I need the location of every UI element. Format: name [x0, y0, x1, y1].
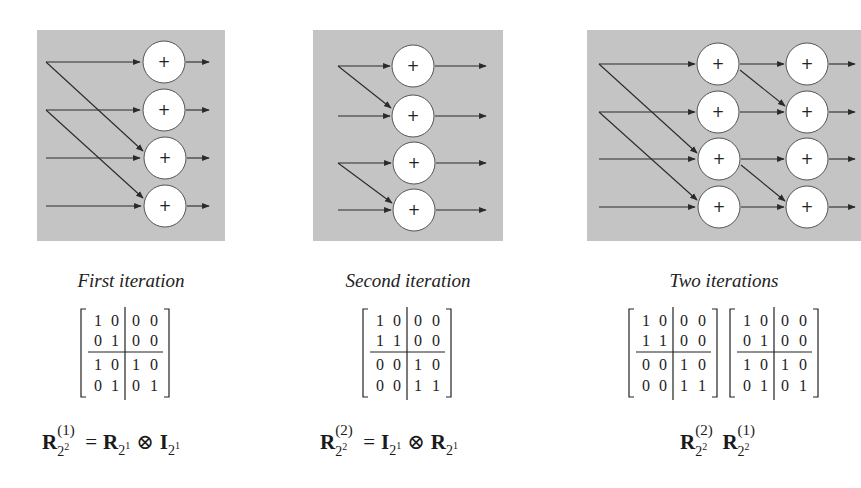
- svg-text:0: 0: [150, 356, 158, 373]
- svg-text:+: +: [158, 101, 171, 119]
- svg-text:0: 0: [760, 312, 768, 329]
- svg-text:0: 0: [698, 312, 706, 329]
- svg-text:0: 0: [642, 356, 650, 373]
- svg-text:0: 0: [432, 312, 440, 329]
- svg-text:+: +: [801, 198, 814, 216]
- svg-text:+: +: [712, 103, 725, 121]
- svg-text:1: 1: [698, 377, 706, 394]
- svg-text:0: 0: [94, 332, 102, 349]
- svg-text:0: 0: [680, 332, 688, 349]
- svg-text:0: 0: [659, 356, 667, 373]
- svg-text:1: 1: [680, 377, 688, 394]
- svg-text:1: 1: [376, 312, 384, 329]
- svg-text:0: 0: [132, 377, 140, 394]
- svg-text:1: 1: [111, 332, 119, 349]
- svg-text:1: 1: [376, 332, 384, 349]
- svg-text:+: +: [408, 154, 421, 172]
- svg-text:+: +: [801, 103, 814, 121]
- svg-text:0: 0: [799, 356, 807, 373]
- svg-text:1: 1: [94, 356, 102, 373]
- svg-text:+: +: [158, 53, 171, 71]
- svg-text:+: +: [801, 55, 814, 73]
- svg-text:0: 0: [781, 312, 789, 329]
- svg-text:+: +: [713, 150, 726, 168]
- svg-text:+: +: [408, 201, 421, 219]
- svg-text:1: 1: [414, 356, 422, 373]
- svg-text:0: 0: [642, 377, 650, 394]
- svg-text:+: +: [712, 55, 725, 73]
- caption-first-iteration: First iteration: [31, 270, 231, 292]
- svg-text:0: 0: [760, 356, 768, 373]
- svg-text:0: 0: [781, 332, 789, 349]
- svg-text:0: 0: [743, 332, 751, 349]
- matrix-two-iterations-right: 1000 0100 1010 0101: [727, 306, 823, 406]
- svg-text:1: 1: [743, 356, 751, 373]
- svg-text:+: +: [159, 197, 172, 215]
- caption-second-iteration: Second iteration: [308, 270, 508, 292]
- svg-text:0: 0: [150, 332, 158, 349]
- svg-text:0: 0: [393, 356, 401, 373]
- svg-text:+: +: [159, 149, 172, 167]
- svg-text:+: +: [407, 57, 420, 75]
- svg-text:1: 1: [94, 312, 102, 329]
- svg-text:+: +: [407, 107, 420, 125]
- svg-text:1: 1: [432, 377, 440, 394]
- svg-text:0: 0: [393, 377, 401, 394]
- svg-text:0: 0: [132, 332, 140, 349]
- formula-second-iteration: R(2)22=I21⊗R21: [320, 424, 458, 464]
- svg-text:0: 0: [659, 312, 667, 329]
- svg-text:1: 1: [150, 377, 158, 394]
- svg-text:0: 0: [799, 312, 807, 329]
- panel-two-iterations-diagram: ++ ++ ++ ++: [587, 30, 861, 241]
- panel-second-iteration-diagram: ++ ++: [313, 30, 503, 241]
- svg-text:1: 1: [393, 332, 401, 349]
- svg-text:0: 0: [680, 312, 688, 329]
- svg-text:0: 0: [111, 356, 119, 373]
- svg-text:0: 0: [111, 312, 119, 329]
- svg-text:0: 0: [743, 377, 751, 394]
- matrix-second-iteration: 1000 1100 0010 0011: [360, 306, 456, 406]
- svg-text:1: 1: [799, 377, 807, 394]
- svg-text:0: 0: [393, 312, 401, 329]
- svg-text:0: 0: [414, 332, 422, 349]
- svg-text:1: 1: [743, 312, 751, 329]
- svg-text:1: 1: [781, 356, 789, 373]
- formula-first-iteration: R(1)22=R21⊗I21: [42, 424, 180, 464]
- svg-text:0: 0: [698, 356, 706, 373]
- svg-text:0: 0: [432, 332, 440, 349]
- svg-text:0: 0: [659, 377, 667, 394]
- svg-text:1: 1: [642, 332, 650, 349]
- svg-text:1: 1: [760, 377, 768, 394]
- svg-text:0: 0: [432, 356, 440, 373]
- matrix-two-iterations-left: 1000 1100 0010 0011: [626, 306, 722, 406]
- svg-text:1: 1: [642, 312, 650, 329]
- svg-text:0: 0: [376, 377, 384, 394]
- panel-first-iteration-diagram: ++ ++: [37, 30, 225, 241]
- svg-text:0: 0: [150, 312, 158, 329]
- svg-text:1: 1: [760, 332, 768, 349]
- svg-text:0: 0: [698, 332, 706, 349]
- svg-text:0: 0: [94, 377, 102, 394]
- svg-text:0: 0: [376, 356, 384, 373]
- svg-text:1: 1: [111, 377, 119, 394]
- svg-text:1: 1: [659, 332, 667, 349]
- svg-text:0: 0: [132, 312, 140, 329]
- svg-text:+: +: [713, 198, 726, 216]
- svg-text:0: 0: [799, 332, 807, 349]
- svg-text:1: 1: [680, 356, 688, 373]
- svg-text:0: 0: [781, 377, 789, 394]
- svg-text:+: +: [801, 150, 814, 168]
- formula-two-iterations: R(2)22 R(1)22: [680, 424, 760, 464]
- svg-text:1: 1: [414, 377, 422, 394]
- svg-text:0: 0: [414, 312, 422, 329]
- caption-two-iterations: Two iterations: [624, 270, 824, 292]
- butterfly-diagrams: ++ ++ ++ ++: [0, 0, 861, 250]
- matrix-first-iteration: 1000 0100 1010 0101: [78, 306, 174, 406]
- svg-text:1: 1: [132, 356, 140, 373]
